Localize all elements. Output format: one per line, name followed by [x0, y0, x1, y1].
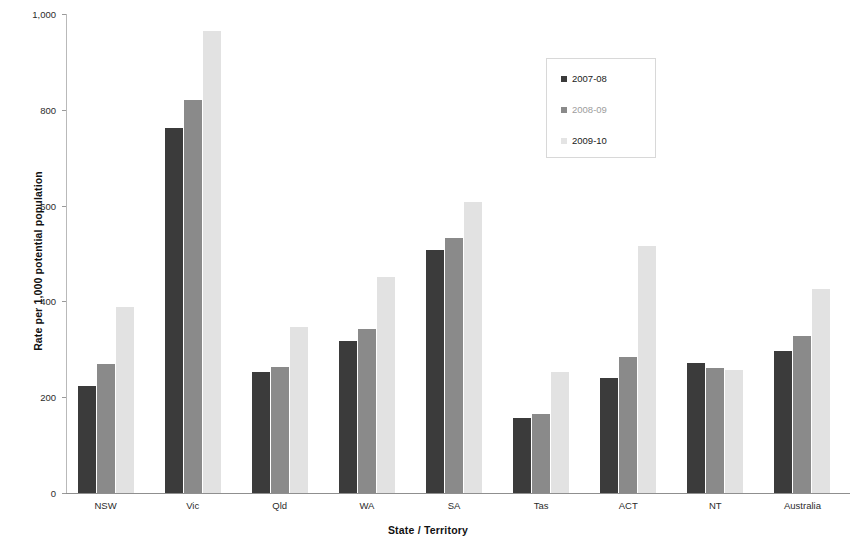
x-axis-line	[66, 493, 850, 494]
bar	[619, 357, 637, 494]
bar-group	[339, 14, 395, 493]
x-axis-tick-label: Qld	[272, 500, 287, 511]
x-axis-tick-label: NT	[709, 500, 722, 511]
bar	[203, 31, 221, 493]
legend-swatch-icon	[561, 107, 567, 113]
bar	[252, 372, 270, 493]
x-axis-tick-label: Australia	[784, 500, 821, 511]
bar	[97, 364, 115, 493]
x-axis-tick-label: NSW	[94, 500, 116, 511]
bar-group	[687, 14, 743, 493]
bar	[706, 368, 724, 493]
bar	[774, 351, 792, 493]
bar	[116, 307, 134, 493]
bar	[290, 327, 308, 493]
bar	[551, 372, 569, 493]
bar-group	[774, 14, 830, 493]
legend-item-2008-09: 2008-09	[561, 104, 607, 115]
y-axis-tick-mark	[62, 206, 66, 207]
legend-swatch-icon	[561, 76, 567, 82]
x-axis-title: State / Territory	[0, 524, 856, 536]
y-axis-tick-label: 400	[8, 296, 56, 307]
y-axis-tick-label: 0	[8, 488, 56, 499]
bar-group	[165, 14, 221, 493]
bar	[464, 202, 482, 493]
bar	[513, 418, 531, 493]
y-axis-tick-mark	[62, 301, 66, 302]
bar-group	[426, 14, 482, 493]
bar	[165, 128, 183, 493]
bar	[339, 341, 357, 493]
y-axis-tick-mark	[62, 397, 66, 398]
bar-group	[78, 14, 134, 493]
bar	[184, 100, 202, 493]
y-axis-tick-label: 200	[8, 392, 56, 403]
bar	[445, 238, 463, 493]
y-axis-tick-label: 600	[8, 200, 56, 211]
bar	[600, 378, 618, 493]
bar	[793, 336, 811, 493]
x-axis-tick-label: SA	[448, 500, 461, 511]
bar-group	[252, 14, 308, 493]
legend-label: 2007-08	[572, 73, 607, 84]
legend: 2007-08 2008-09 2009-10	[546, 58, 656, 158]
y-axis-tick-mark	[62, 110, 66, 111]
legend-label: 2008-09	[572, 104, 607, 115]
legend-label: 2009-10	[572, 135, 607, 146]
legend-swatch-icon	[561, 138, 567, 144]
bar	[358, 329, 376, 493]
legend-item-2009-10: 2009-10	[561, 135, 607, 146]
y-axis-title: Rate per 1,000 potential population	[32, 131, 44, 391]
x-axis-tick-label: Vic	[186, 500, 199, 511]
x-axis-tick-label: WA	[359, 500, 374, 511]
bar	[725, 370, 743, 493]
bar	[78, 386, 96, 493]
plot-area: 02004006008001,000NSWVicQldWASATasACTNTA…	[66, 14, 850, 493]
y-axis-tick-mark	[62, 14, 66, 15]
x-axis-tick-label: Tas	[534, 500, 549, 511]
bar	[377, 277, 395, 493]
y-axis-tick-mark	[62, 493, 66, 494]
legend-item-2007-08: 2007-08	[561, 73, 607, 84]
bar-chart: Rate per 1,000 potential population 0200…	[0, 0, 856, 542]
bar	[532, 414, 550, 493]
bar	[271, 367, 289, 493]
bar	[638, 246, 656, 493]
x-axis-tick-label: ACT	[619, 500, 638, 511]
y-axis-tick-label: 1,000	[8, 9, 56, 20]
y-axis-tick-label: 800	[8, 104, 56, 115]
bar	[687, 363, 705, 493]
y-axis-line	[66, 14, 67, 493]
bar	[426, 250, 444, 493]
bar	[812, 289, 830, 493]
